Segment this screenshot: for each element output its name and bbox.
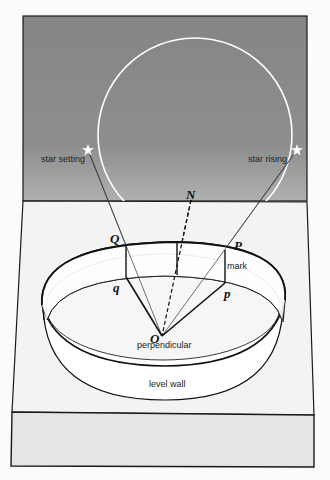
point-P-label: P — [234, 238, 243, 253]
point-p-label: p — [223, 286, 231, 301]
point-Q-label: Q — [110, 231, 120, 246]
mark-label: mark — [227, 261, 247, 271]
sky-panel — [23, 16, 307, 201]
level-wall-label: level wall — [149, 379, 186, 389]
point-q-label: q — [113, 280, 120, 295]
point-N-label: N — [185, 187, 196, 202]
ground-side — [11, 412, 314, 467]
perpendicular-label: perpendicular — [137, 340, 192, 350]
star-rising-label: star rising — [248, 154, 287, 164]
diagram-canvas: star setting star rising N Q P q p O mar… — [0, 0, 330, 480]
star-setting-label: star setting — [41, 154, 85, 164]
